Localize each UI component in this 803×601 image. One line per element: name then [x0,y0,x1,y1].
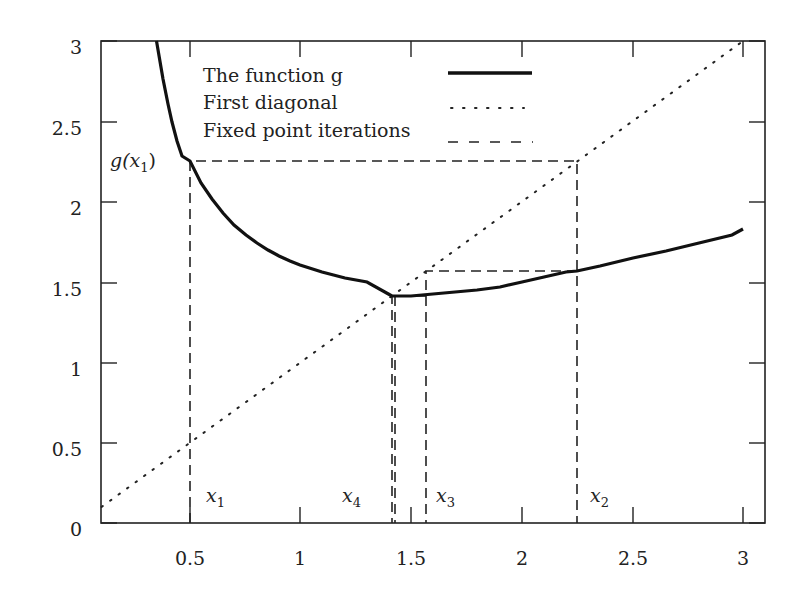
x2-label: x2 [590,484,609,510]
x-tick-labels: 0.5 1 1.5 2 2.5 3 [175,547,749,569]
x4-label: x4 [342,484,361,510]
chart-canvas: 0.5 1 1.5 2 2.5 3 0 0.5 1 1.5 2 2.5 3 Th… [0,0,803,601]
y-tick-label: 0.5 [52,438,82,460]
y-tick-label: 2 [70,197,82,219]
iteration-lines [190,161,577,523]
x3-label: x3 [436,484,455,510]
x-tick-label: 1 [294,547,306,569]
x-ticks [190,41,743,523]
legend-item-iterations: Fixed point iterations [203,119,533,142]
y-tick-label: 1 [70,358,82,380]
y-tick-label: 3 [70,36,82,58]
y-tick-labels: 0 0.5 1 1.5 2 2.5 3 [52,36,82,540]
x-tick-label: 2 [516,547,528,569]
legend-item-first-diagonal: First diagonal [203,91,524,113]
plot-frame [101,41,765,523]
g-x1-label: g(x1) [110,149,156,175]
legend-item-function-g: The function g [203,64,532,86]
y-tick-label: 0 [70,518,82,540]
x-tick-label: 0.5 [175,547,205,569]
legend-label: The function g [203,64,343,86]
x1-label: x1 [206,484,225,510]
y-ticks [101,41,765,523]
diagonal-line [102,41,743,507]
x-tick-label: 2.5 [618,547,648,569]
x-tick-label: 1.5 [396,547,426,569]
y-tick-label: 2.5 [52,117,82,139]
y-tick-label: 1.5 [52,278,82,300]
legend-label: First diagonal [203,91,338,113]
legend: The function g First diagonal Fixed poin… [203,64,533,142]
x-tick-label: 3 [737,547,749,569]
legend-label: Fixed point iterations [203,119,411,141]
